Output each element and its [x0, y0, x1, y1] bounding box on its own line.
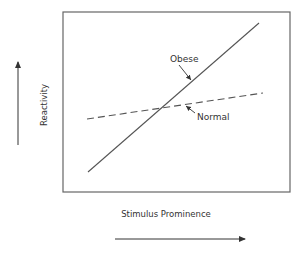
plot-frame [63, 12, 290, 192]
annotation-obese-leader [179, 65, 191, 80]
chart-canvas: Obese Normal Reactivity Stimulus Promine… [0, 0, 303, 257]
y-axis-label: Reactivity [39, 84, 49, 126]
annotation-obese-label: Obese [170, 54, 199, 64]
annotation-normal-label: Normal [197, 112, 230, 122]
annotation-normal-leader [186, 106, 195, 113]
x-axis-label: Stimulus Prominence [121, 209, 211, 219]
